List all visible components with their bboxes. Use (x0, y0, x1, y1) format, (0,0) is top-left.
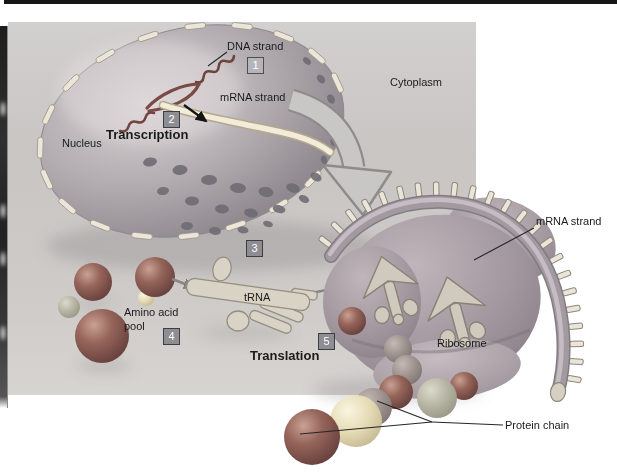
textbook-figure: DNA strand mRNA strand Transcription Nuc… (0, 0, 617, 472)
step-marker-4: 4 (163, 328, 180, 345)
nucleus-label: Nucleus (62, 136, 102, 150)
cytoplasm-label: Cytoplasm (390, 75, 442, 89)
ribosome-label: Ribosome (437, 336, 487, 350)
diagram-canvas (0, 0, 617, 472)
step-marker-5: 5 (318, 333, 335, 350)
trna-label: tRNA (244, 290, 270, 304)
dna-strand-label: DNA strand (227, 39, 283, 53)
top-rule (4, 0, 617, 4)
mrna-strand-right-label: mRNA strand (536, 214, 601, 228)
mrna-strand-top-label: mRNA strand (220, 90, 285, 104)
transcription-label: Transcription (106, 128, 188, 142)
translation-label: Translation (250, 349, 319, 363)
step-marker-3: 3 (246, 240, 263, 257)
protein-chain-label: Protein chain (505, 418, 569, 432)
amino-acid-pool-label: Amino acid pool (124, 305, 192, 333)
page-edge (0, 26, 8, 408)
step-marker-2: 2 (163, 111, 180, 128)
step-marker-1: 1 (247, 57, 264, 74)
